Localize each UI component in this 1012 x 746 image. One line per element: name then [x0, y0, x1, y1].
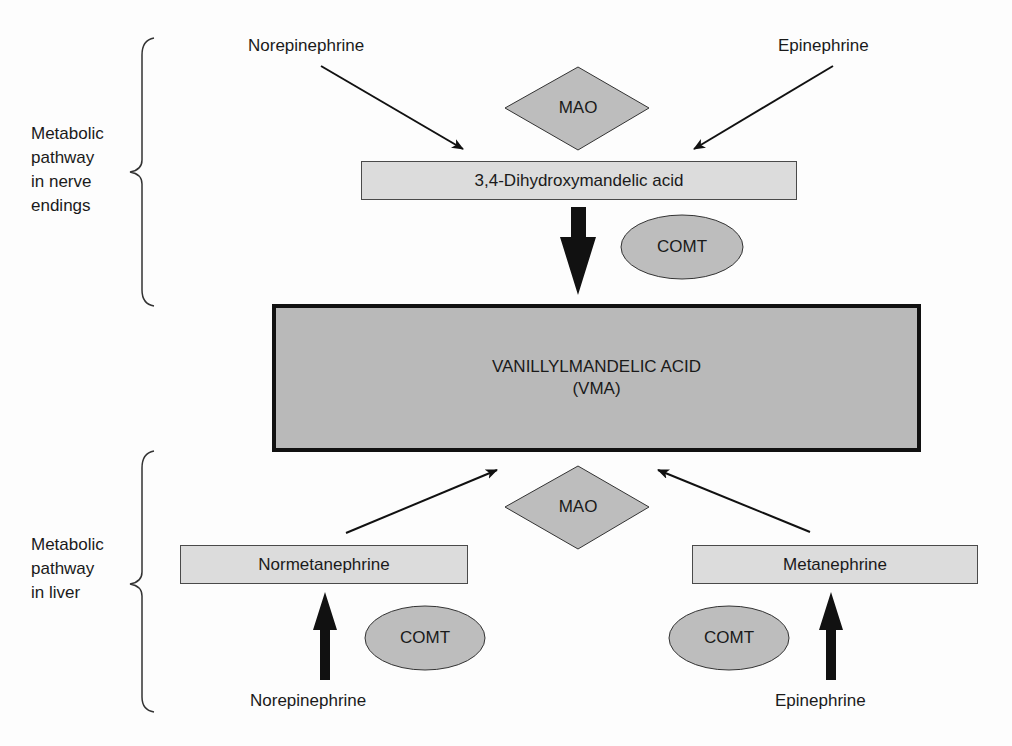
brace-liver [130, 451, 154, 712]
liver-label-line: pathway [31, 557, 104, 581]
thick-arrow-up-left [313, 592, 337, 680]
normetanephrine-label: Normetanephrine [258, 555, 389, 575]
mao-label-top: MAO [505, 97, 651, 119]
nerve-label-line: in nerve [31, 170, 104, 194]
norepinephrine-source-top: Norepinephrine [248, 36, 364, 56]
epinephrine-source-bottom: Epinephrine [775, 691, 866, 711]
vma-name: VANILLYLMANDELIC ACID [492, 356, 701, 378]
dhma-label: 3,4-Dihydroxymandelic acid [475, 171, 684, 191]
vma-box: VANILLYLMANDELIC ACID (VMA) [272, 304, 921, 452]
mao-label-bottom: MAO [505, 496, 651, 518]
nerve-pathway-label: Metabolic pathway in nerve endings [31, 122, 104, 218]
norepinephrine-source-bottom: Norepinephrine [250, 691, 366, 711]
nerve-label-line: Metabolic [31, 122, 104, 146]
metanephrine-box: Metanephrine [692, 545, 978, 584]
comt-label-liver-left: COMT [365, 627, 485, 649]
liver-pathway-label: Metabolic pathway in liver [31, 533, 104, 605]
epinephrine-source-top: Epinephrine [778, 36, 869, 56]
normetanephrine-box: Normetanephrine [180, 545, 468, 584]
nerve-label-line: pathway [31, 146, 104, 170]
arrow-met-to-vma [658, 470, 810, 532]
arrow-epi-to-dhma [694, 66, 833, 149]
liver-label-line: in liver [31, 581, 104, 605]
diagram-canvas: Metabolic pathway in nerve endings Metab… [0, 0, 1012, 746]
arrow-norepi-to-dhma [321, 66, 463, 149]
thick-arrow-down [560, 207, 596, 295]
comt-label-nerve: COMT [621, 236, 743, 258]
metanephrine-label: Metanephrine [783, 555, 887, 575]
liver-label-line: Metabolic [31, 533, 104, 557]
dhma-box: 3,4-Dihydroxymandelic acid [361, 161, 797, 200]
nerve-label-line: endings [31, 194, 104, 218]
comt-label-liver-right: COMT [669, 627, 789, 649]
arrow-normet-to-vma [346, 470, 497, 533]
thick-arrow-up-right [819, 592, 843, 680]
vma-abbrev: (VMA) [572, 378, 620, 400]
brace-nerve [130, 38, 154, 306]
